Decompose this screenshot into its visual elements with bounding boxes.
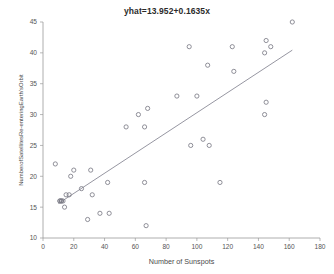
x-tick-label: 160 — [284, 243, 295, 250]
data-point — [106, 180, 110, 184]
x-tick-label: 20 — [70, 243, 78, 250]
data-point — [195, 94, 199, 98]
data-point — [72, 168, 76, 172]
figure-container: yhat=13.952+0.1635x 02040608010012014016… — [0, 0, 334, 274]
data-point — [264, 38, 268, 42]
data-point — [90, 193, 94, 197]
y-tick-label: 15 — [30, 204, 38, 211]
x-tick-label: 140 — [253, 243, 264, 250]
data-point — [142, 180, 146, 184]
scatter-plot: 020406080100120140160180 101520253035404… — [0, 0, 334, 274]
data-point — [53, 162, 57, 166]
data-point — [230, 45, 234, 49]
x-tick-label: 100 — [191, 243, 202, 250]
data-point — [107, 211, 111, 215]
data-point — [264, 100, 268, 104]
x-tick-label: 40 — [101, 243, 109, 250]
y-tick-label: 20 — [30, 173, 38, 180]
data-point — [89, 168, 93, 172]
y-tick-label: 30 — [30, 111, 38, 118]
data-point — [290, 20, 294, 24]
y-tick-label: 10 — [30, 234, 38, 241]
data-point — [175, 94, 179, 98]
data-point — [136, 112, 140, 116]
data-point — [218, 180, 222, 184]
data-point — [269, 45, 273, 49]
data-point — [86, 217, 90, 221]
x-tick-label: 180 — [314, 243, 325, 250]
y-tick-label: 25 — [30, 142, 38, 149]
regression-line — [58, 50, 292, 203]
x-tick-label: 80 — [162, 243, 170, 250]
data-point — [146, 106, 150, 110]
data-point — [263, 112, 267, 116]
x-tick-label: 60 — [132, 243, 140, 250]
y-axis-ticks: 1015202530354045 — [30, 18, 43, 241]
data-point — [201, 137, 205, 141]
data-point — [144, 224, 148, 228]
data-point — [189, 143, 193, 147]
data-point — [62, 205, 66, 209]
x-tick-label: 120 — [222, 243, 233, 250]
x-axis-label: Number of Sunspots — [149, 257, 215, 266]
data-point — [69, 174, 73, 178]
data-point — [124, 125, 128, 129]
data-point — [206, 63, 210, 67]
y-axis-label: NumberofSatellitesRe-enteringEarth'sOrbi… — [18, 74, 24, 186]
data-point — [263, 51, 267, 55]
data-point — [98, 211, 102, 215]
data-point — [187, 45, 191, 49]
data-point — [232, 69, 236, 73]
y-tick-label: 35 — [30, 80, 38, 87]
data-point — [142, 125, 146, 129]
x-tick-label: 0 — [41, 243, 45, 250]
data-point — [207, 143, 211, 147]
data-points — [53, 20, 294, 228]
y-tick-label: 40 — [30, 49, 38, 56]
x-axis-ticks: 020406080100120140160180 — [41, 238, 326, 250]
y-tick-label: 45 — [30, 18, 38, 25]
